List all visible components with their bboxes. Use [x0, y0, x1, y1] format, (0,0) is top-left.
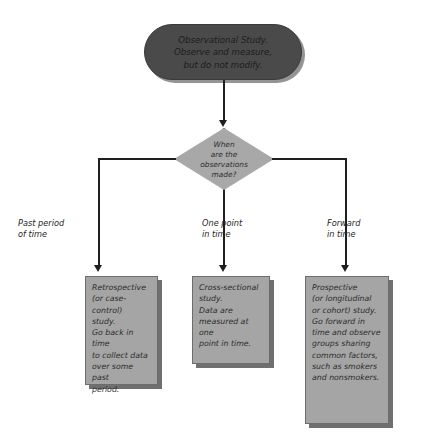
- decision-line-1: When: [213, 140, 234, 150]
- prospective-study-node: Prospective (or longitudinal or cohort) …: [305, 276, 389, 424]
- branch-label-middle-line-1: One point: [202, 218, 242, 229]
- decision-line-3: observations: [200, 160, 248, 170]
- prospective-line-9: and nonsmokers.: [312, 372, 382, 383]
- retrospective-study-node: Retrospective (or case-control) study. G…: [85, 276, 158, 385]
- arrowhead-to-cross-sectional: [219, 265, 227, 272]
- top-node-line-3: but do not modify.: [145, 59, 301, 71]
- prospective-line-8: such as smokers: [312, 361, 382, 372]
- cross-sectional-study-node: Cross-sectional study. Data are measured…: [192, 276, 270, 364]
- retrospective-line-7: period.: [92, 384, 151, 395]
- prospective-line-5: time and observe: [312, 327, 382, 338]
- observational-study-node: Observational Study. Observe and measure…: [144, 24, 302, 80]
- decision-node: When are the observations made?: [174, 128, 274, 190]
- decision-line-4: made?: [212, 170, 237, 180]
- cross-sectional-line-2: study.: [199, 293, 263, 304]
- connector-right-vertical: [345, 158, 347, 266]
- branch-label-middle-line-2: in time: [202, 229, 242, 240]
- top-node-line-1: Observational Study.: [145, 34, 301, 46]
- arrowhead-to-retrospective: [94, 265, 102, 272]
- branch-label-right-line-1: Forward: [327, 218, 360, 229]
- branch-label-forward: Forward in time: [327, 218, 360, 240]
- branch-label-left-line-2: of time: [18, 229, 64, 240]
- arrowhead-to-prospective: [341, 265, 349, 272]
- connector-decision-left-horizontal: [98, 158, 176, 160]
- cross-sectional-line-4: measured at one: [199, 316, 263, 339]
- top-node-line-2: Observe and measure,: [145, 46, 301, 58]
- retrospective-line-1: Retrospective: [92, 282, 151, 293]
- prospective-line-2: (or longitudinal: [312, 293, 382, 304]
- connector-top-to-decision: [223, 80, 225, 121]
- retrospective-line-6: over some past: [92, 361, 151, 384]
- prospective-line-6: groups sharing: [312, 338, 382, 349]
- arrowhead-to-decision: [219, 120, 227, 127]
- retrospective-line-5: to collect data: [92, 350, 151, 361]
- connector-left-vertical: [98, 158, 100, 266]
- flowchart-canvas: Observational Study. Observe and measure…: [0, 0, 441, 448]
- cross-sectional-line-1: Cross-sectional: [199, 282, 263, 293]
- prospective-line-7: common factors,: [312, 350, 382, 361]
- prospective-line-1: Prospective: [312, 282, 382, 293]
- prospective-line-3: or cohort) study.: [312, 305, 382, 316]
- cross-sectional-line-3: Data are: [199, 305, 263, 316]
- retrospective-line-2: (or case-control): [92, 293, 151, 316]
- retrospective-line-3: study.: [92, 316, 151, 327]
- decision-node-text: When are the observations made?: [174, 128, 274, 190]
- branch-label-past-period: Past period of time: [18, 218, 64, 240]
- cross-sectional-line-5: point in time.: [199, 338, 263, 349]
- branch-label-one-point: One point in time: [202, 218, 242, 240]
- decision-line-2: are the: [211, 150, 238, 160]
- connector-decision-right-horizontal: [272, 158, 347, 160]
- prospective-line-4: Go forward in: [312, 316, 382, 327]
- retrospective-line-4: Go back in time: [92, 327, 151, 350]
- branch-label-left-line-1: Past period: [18, 218, 64, 229]
- branch-label-right-line-2: in time: [327, 229, 360, 240]
